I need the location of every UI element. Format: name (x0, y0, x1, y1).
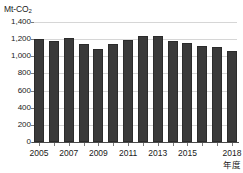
bar (34, 39, 44, 142)
y-axis-tick-label: 600 (1, 87, 31, 95)
x-axis-tick-mark (217, 143, 218, 146)
x-axis-ticks-group (34, 143, 237, 146)
x-axis-labels-group: 2005200720092011201320152018 (34, 148, 237, 160)
y-axis-tick-label: 0 (1, 138, 31, 146)
x-axis-tick-mark (39, 143, 40, 146)
x-axis-tick-label: 2007 (59, 148, 78, 158)
y-axis-tick-label: 1,200 (1, 35, 31, 43)
bar (227, 51, 237, 142)
x-axis-tick-mark (187, 143, 188, 146)
x-axis-tick-mark (158, 143, 159, 146)
bar (93, 49, 103, 142)
bar (153, 36, 163, 142)
x-axis-tick-mark (84, 143, 85, 146)
x-axis-tick-mark (113, 143, 114, 146)
y-axis-ticks-group: 1,4001,2001,0008006004002000 (0, 0, 31, 173)
x-axis-tick-mark (173, 143, 174, 146)
bar (123, 40, 133, 142)
bar (197, 46, 207, 142)
x-axis-title: 年度 (223, 158, 241, 170)
x-axis-tick-mark (143, 143, 144, 146)
y-axis-tick-label: 200 (1, 121, 31, 129)
bar (49, 41, 59, 142)
bar (108, 44, 118, 142)
bar (138, 36, 148, 142)
bar (64, 38, 74, 142)
x-axis-tick-mark (232, 143, 233, 146)
x-axis-tick-mark (54, 143, 55, 146)
bar (79, 44, 89, 142)
y-axis-tick-label: 800 (1, 69, 31, 77)
x-axis-tick-label: 2009 (89, 148, 108, 158)
bar (182, 43, 192, 142)
x-axis-tick-mark (98, 143, 99, 146)
x-axis-tick-mark (128, 143, 129, 146)
chart-screenshot: Mt-CO2 1,4001,2001,0008006004002000 2005… (0, 0, 243, 173)
cropped-legend-strip (0, 0, 243, 4)
x-axis-tick-label: 2011 (119, 148, 137, 158)
x-axis-tick-mark (69, 143, 70, 146)
x-axis-tick-label: 2005 (30, 148, 49, 158)
x-axis-tick-label: 2013 (148, 148, 167, 158)
x-axis-tick-label: 2018 (223, 148, 242, 158)
y-axis-tick-label: 1,400 (1, 18, 31, 26)
bar (168, 41, 178, 142)
y-axis-tick-label: 1,000 (1, 52, 31, 60)
bar (212, 47, 222, 142)
x-axis-tick-label: 2015 (178, 148, 197, 158)
bar-series-group (34, 22, 237, 142)
x-axis-tick-mark (202, 143, 203, 146)
y-axis-tick-label: 400 (1, 104, 31, 112)
